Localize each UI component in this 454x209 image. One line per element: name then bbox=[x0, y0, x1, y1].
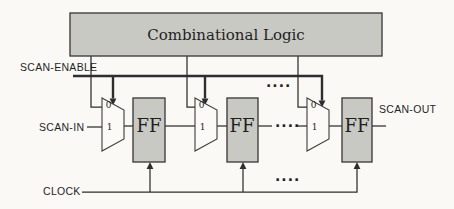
ellipsis-scan-enable: .... bbox=[266, 74, 291, 90]
mux3-input0-label: 0 bbox=[311, 100, 317, 110]
mux1-input1-label: 1 bbox=[107, 122, 113, 132]
scan-in-label: SCAN-IN bbox=[39, 121, 84, 133]
ff2-label: FF bbox=[230, 115, 255, 136]
mux3-input1-label: 1 bbox=[312, 122, 318, 132]
ff1-label: FF bbox=[137, 115, 162, 136]
ellipsis-clock: .... bbox=[275, 168, 300, 184]
ellipsis-datapath: .... bbox=[275, 114, 300, 130]
mux1-input0-label: 0 bbox=[106, 100, 112, 110]
scan-enable-label: SCAN-ENABLE bbox=[20, 61, 97, 73]
ff3-label: FF bbox=[345, 115, 370, 136]
mux2-input1-label: 1 bbox=[200, 122, 206, 132]
scan-out-label: SCAN-OUT bbox=[379, 103, 437, 115]
scan-chain-diagram: Combinational Logic SCAN-ENABLE SCAN-IN … bbox=[0, 0, 454, 209]
combinational-logic-label: Combinational Logic bbox=[147, 26, 305, 44]
mux2-input0-label: 0 bbox=[199, 100, 205, 110]
clock-label: CLOCK bbox=[43, 185, 81, 197]
